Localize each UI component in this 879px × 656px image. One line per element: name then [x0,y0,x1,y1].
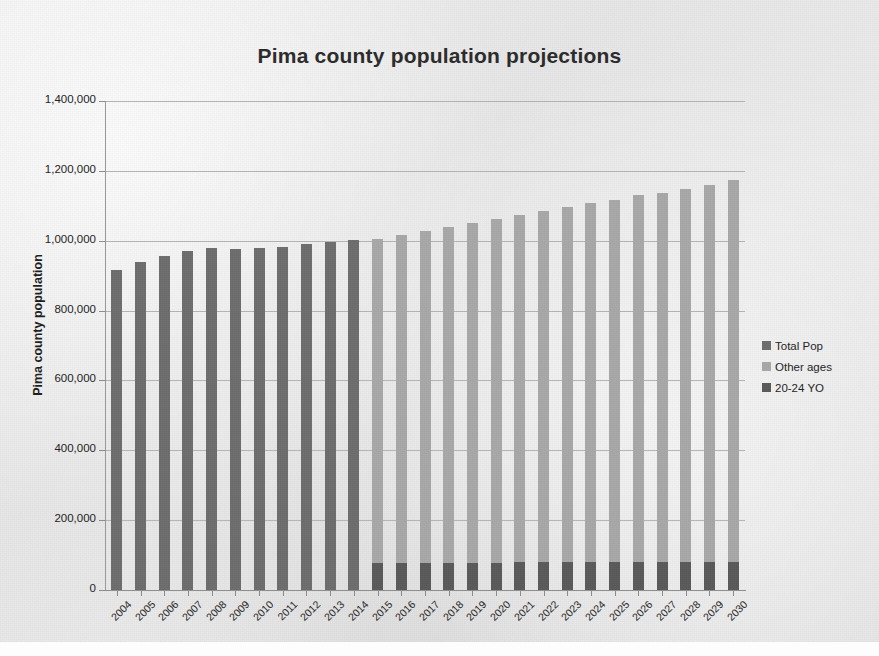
bar-group[interactable] [182,251,193,591]
bar-group[interactable] [135,262,146,590]
x-tick-mark [615,591,616,596]
legend-item[interactable]: 20-24 YO [762,378,866,397]
bar-group[interactable] [372,239,383,590]
bar-segment[interactable] [704,185,715,562]
bar-segment[interactable] [254,248,265,590]
bar-segment[interactable] [420,563,431,590]
bar-group[interactable] [514,215,525,590]
bar-group[interactable] [348,240,359,590]
bar-group[interactable] [443,227,454,590]
y-tick-label: 0 [6,582,96,594]
bar-group[interactable] [230,249,241,590]
bar-segment[interactable] [562,562,573,590]
bar-segment[interactable] [585,562,596,590]
bar-segment[interactable] [562,207,573,563]
bar-group[interactable] [159,256,170,590]
bar-segment[interactable] [585,203,596,562]
bar-group[interactable] [206,248,217,590]
bar-segment[interactable] [277,247,288,590]
bar-segment[interactable] [301,244,312,590]
x-tick-mark [306,591,307,596]
bar-segment[interactable] [657,562,668,590]
bar-segment[interactable] [657,193,668,562]
page-title: Pima county population projections [0,44,879,68]
bar-group[interactable] [562,207,573,590]
bar-segment[interactable] [372,563,383,590]
bar-segment[interactable] [396,235,407,563]
bar-group[interactable] [609,200,620,591]
legend-label: Other ages [775,361,832,373]
bar-segment[interactable] [538,562,549,590]
bar-group[interactable] [277,247,288,590]
bar-group[interactable] [301,244,312,590]
x-tick-mark [709,591,710,596]
bar-segment[interactable] [680,562,691,590]
y-tick-label: 1,000,000 [6,233,96,245]
bar-group[interactable] [396,235,407,590]
bar-segment[interactable] [491,563,502,590]
bar-segment[interactable] [467,223,478,563]
bar-segment[interactable] [633,562,644,590]
legend-label: Total Pop [775,340,823,352]
y-tick-label: 400,000 [6,442,96,454]
x-tick-mark [520,591,521,596]
bar-segment[interactable] [206,248,217,590]
bar-segment[interactable] [609,562,620,590]
bar-segment[interactable] [728,562,739,590]
bar-segment[interactable] [159,256,170,590]
bar-group[interactable] [728,180,739,590]
x-tick-mark [141,591,142,596]
bar-group[interactable] [325,242,336,590]
bar-segment[interactable] [728,180,739,561]
bar-segment[interactable] [135,262,146,590]
bar-segment[interactable] [538,211,549,563]
bar-segment[interactable] [182,251,193,591]
legend-item[interactable]: Other ages [762,357,866,376]
bar-segment[interactable] [396,563,407,590]
y-tick-mark [99,590,106,591]
bar-segment[interactable] [230,249,241,590]
bar-group[interactable] [491,219,502,590]
bar-group[interactable] [585,203,596,590]
chart-legend: Total PopOther ages20-24 YO [762,336,866,399]
bar-group[interactable] [633,195,644,590]
bar-group[interactable] [111,270,122,590]
y-tick-mark [99,311,106,312]
bar-segment[interactable] [111,270,122,590]
bar-group[interactable] [420,231,431,590]
bar-segment[interactable] [514,215,525,563]
y-tick-label: 1,400,000 [6,93,96,105]
x-tick-mark [496,591,497,596]
bar-segment[interactable] [704,562,715,590]
bar-segment[interactable] [609,200,620,563]
bar-segment[interactable] [514,562,525,590]
x-tick-mark [544,591,545,596]
bar-group[interactable] [657,193,668,590]
bar-segment[interactable] [348,240,359,590]
y-tick-label: 1,200,000 [6,163,96,175]
bar-segment[interactable] [420,231,431,563]
bar-segment[interactable] [325,242,336,590]
bar-group[interactable] [680,189,691,590]
bar-group[interactable] [467,223,478,590]
bar-segment[interactable] [680,189,691,561]
legend-label: 20-24 YO [775,382,824,394]
y-tick-mark [99,450,106,451]
bar-group[interactable] [254,248,265,590]
bar-segment[interactable] [443,227,454,562]
y-tick-label: 200,000 [6,512,96,524]
bar-segment[interactable] [491,219,502,563]
bar-group[interactable] [538,211,549,590]
bar-segment[interactable] [372,239,383,563]
bar-segment[interactable] [467,563,478,590]
scan-bottom-edge [0,642,879,656]
bar-group[interactable] [704,185,715,590]
bar-segment[interactable] [633,195,644,562]
y-axis-tick-labels: 0200,000400,000600,000800,0001,000,0001,… [0,0,96,656]
y-tick-mark [99,171,106,172]
x-tick-mark [449,591,450,596]
legend-item[interactable]: Total Pop [762,336,866,355]
scanned-chart-page: Pima county population projections Pima … [0,0,879,656]
x-tick-mark [117,591,118,596]
bar-segment[interactable] [443,563,454,590]
